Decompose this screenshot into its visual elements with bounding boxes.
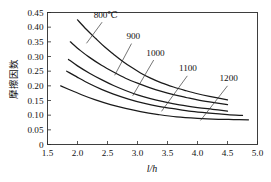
x-tick-label: 4.5 [222, 148, 234, 158]
y-tick-label: 0.25 [27, 66, 43, 76]
y-tick-label: 0.35 [27, 37, 43, 47]
series-label-1200: 1200 [220, 73, 239, 83]
x-tick-label: 3.0 [132, 148, 144, 158]
x-tick-label: 1.5 [42, 148, 54, 158]
y-tick-label: 0.45 [27, 8, 43, 18]
y-tick-label: 0.15 [27, 96, 43, 106]
series-label-1000: 1000 [146, 48, 165, 58]
x-tick-label: 4.0 [192, 148, 204, 158]
x-tick-label: 2.0 [72, 148, 84, 158]
figure-container: 00.050.100.150.200.250.300.350.400.45 1.… [0, 0, 271, 182]
y-tick-label: 0.20 [27, 81, 43, 91]
series-label-900: 900 [126, 31, 140, 41]
x-tick-label: 2.5 [102, 148, 114, 158]
y-tick-label: 0.05 [27, 125, 43, 135]
y-tick-label: 0.40 [27, 22, 43, 32]
y-tick-label: 0.10 [27, 110, 43, 120]
series-label-1100: 1100 [179, 63, 197, 73]
friction-factor-chart: 00.050.100.150.200.250.300.350.400.45 1.… [0, 0, 271, 182]
series-label-800: 800℃ [94, 10, 118, 20]
x-tick-label: 3.5 [162, 148, 174, 158]
y-tick-label: 0.30 [27, 52, 43, 62]
x-tick-label: 5.0 [252, 148, 264, 158]
x-axis-title: l/h [147, 163, 158, 174]
y-axis-title: 摩擦因数 [8, 59, 19, 99]
